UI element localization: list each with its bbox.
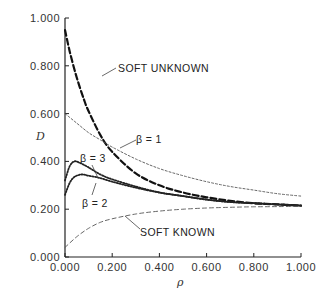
- label-beta2: β = 2: [82, 197, 108, 209]
- line-chart: 0.0000.2000.4000.6000.8001.000 0.0000.20…: [0, 0, 330, 297]
- leader-soft-unknown: [102, 68, 116, 76]
- x-tick-label: 0.000: [50, 261, 80, 273]
- series-soft-unknown: [65, 30, 301, 206]
- y-tick-label: 0.600: [30, 108, 60, 120]
- axes: [65, 18, 301, 257]
- leader-soft-known: [125, 216, 140, 229]
- x-tick-label: 0.400: [144, 261, 174, 273]
- y-tick-label: 0.200: [30, 203, 60, 215]
- y-tick-label: 0.800: [30, 60, 60, 72]
- x-ticks: 0.0000.2000.4000.6000.8001.000: [50, 253, 316, 273]
- leader-beta1: [120, 140, 136, 148]
- x-axis-label: ρ: [176, 276, 184, 289]
- label-beta3: β = 3: [80, 152, 106, 164]
- label-beta1: β = 1: [136, 133, 162, 145]
- x-tick-label: 0.600: [192, 261, 222, 273]
- x-tick-label: 0.800: [239, 261, 269, 273]
- y-tick-label: 1.000: [30, 12, 60, 24]
- y-axis-label: D: [35, 130, 45, 143]
- x-tick-label: 0.200: [97, 261, 127, 273]
- label-soft-unknown: SOFT UNKNOWN: [118, 62, 209, 74]
- label-soft-known: SOFT KNOWN: [140, 226, 215, 238]
- x-tick-label: 1.000: [286, 261, 316, 273]
- y-tick-label: 0.400: [30, 155, 60, 167]
- leader-beta2: [92, 183, 96, 195]
